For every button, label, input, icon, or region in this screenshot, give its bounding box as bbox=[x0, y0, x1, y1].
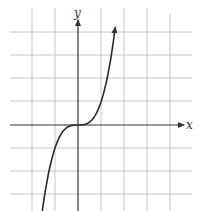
cubic-graph: x y bbox=[0, 0, 199, 211]
x-axis-label: x bbox=[186, 118, 193, 132]
grid bbox=[10, 8, 192, 211]
y-axis-label: y bbox=[73, 6, 81, 20]
